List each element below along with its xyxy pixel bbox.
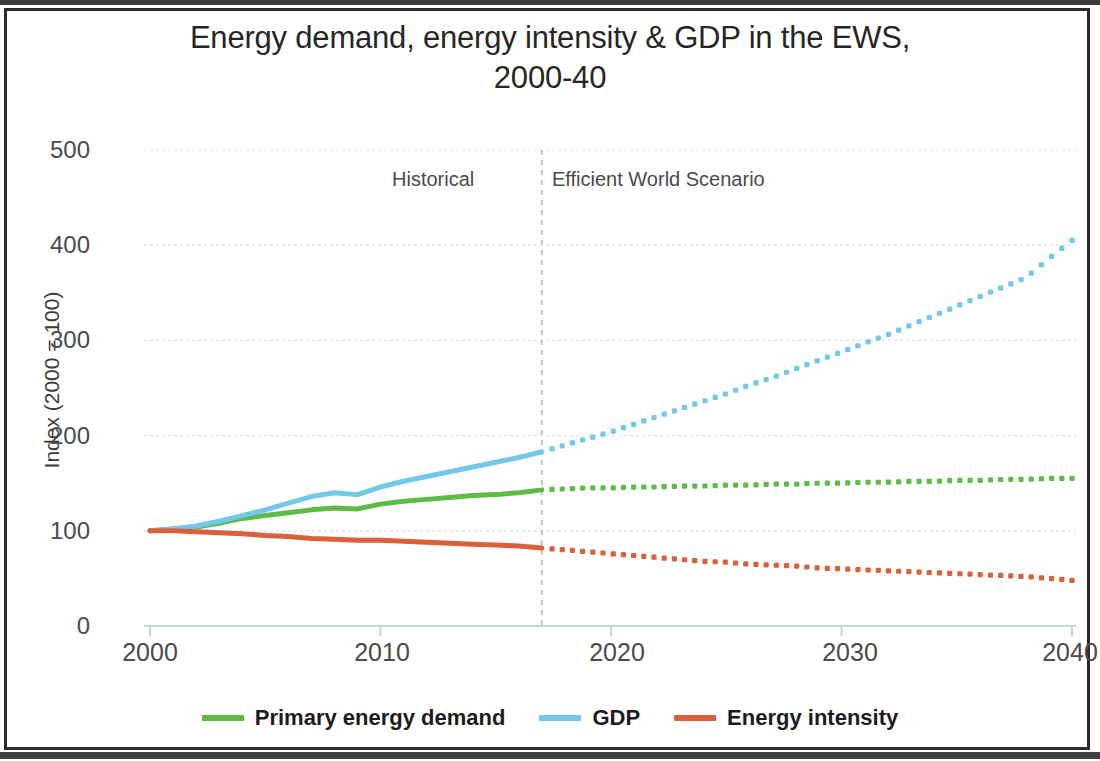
legend-swatch-energy-intensity (674, 715, 716, 721)
axis-lines (144, 626, 1076, 636)
legend-swatch-primary-energy-demand (202, 715, 244, 721)
legend-swatch-gdp (539, 715, 581, 721)
legend-item-gdp[interactable]: GDP (539, 705, 640, 731)
chart-figure: Energy demand, energy intensity & GDP in… (0, 0, 1100, 761)
chart-legend: Primary energy demand GDP Energy intensi… (0, 705, 1100, 731)
legend-item-primary-energy-demand[interactable]: Primary energy demand (202, 705, 506, 731)
legend-label-energy-intensity: Energy intensity (727, 705, 898, 731)
legend-label-gdp: GDP (592, 705, 640, 731)
legend-label-primary-energy-demand: Primary energy demand (255, 705, 506, 731)
legend-item-energy-intensity[interactable]: Energy intensity (674, 705, 898, 731)
plot-area (0, 0, 1100, 761)
gridlines (144, 150, 1076, 626)
